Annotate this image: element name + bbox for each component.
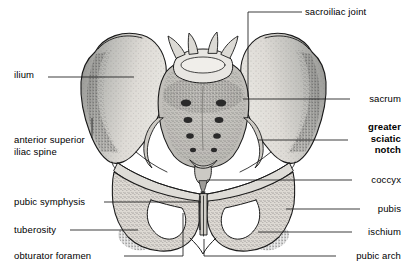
label-gsn-line2: sciatic [331, 133, 401, 145]
label-pubic-symphysis: pubic symphysis [14, 196, 85, 208]
label-anterior-superior-iliac-spine: anterior superior iliac spine [14, 134, 124, 157]
label-asis-line2: iliac spine [14, 146, 124, 158]
label-sacroiliac-joint: sacroiliac joint [305, 6, 366, 18]
label-ischium: ischium [368, 226, 401, 238]
label-sacrum: sacrum [369, 93, 401, 105]
label-obturator-foramen: obturator foramen [14, 250, 91, 262]
label-tuberosity: tuberosity [14, 224, 56, 236]
label-pubic-arch: pubic arch [356, 250, 401, 262]
label-gsn-line1: greater [331, 121, 401, 133]
label-gsn-line3: notch [331, 144, 401, 156]
label-greater-sciatic-notch: greater sciatic notch [331, 121, 401, 156]
label-asis-line1: anterior superior [14, 134, 124, 146]
pubic-symphysis [198, 194, 207, 236]
label-coccyx: coccyx [371, 174, 401, 186]
label-pubis: pubis [378, 203, 401, 215]
label-ilium: ilium [14, 69, 34, 81]
